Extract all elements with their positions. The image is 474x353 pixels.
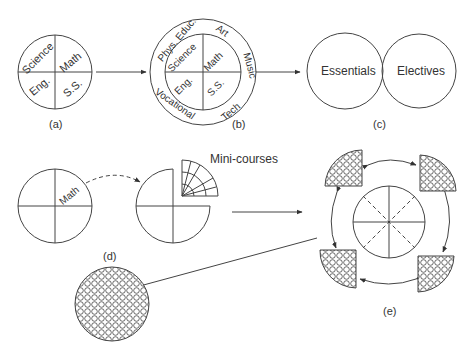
caption-a: (a) — [49, 118, 62, 130]
caption-d: (d) — [103, 250, 116, 262]
caption-b: (b) — [232, 118, 245, 130]
caption-e: (e) — [383, 305, 396, 317]
circle-label-electives: Electives — [397, 64, 445, 78]
curriculum-diagram: Science Math Eng. S.S. (a) Science Math … — [0, 0, 474, 353]
mini-courses-label: Mini-courses — [210, 152, 278, 166]
circle-label-essentials: Essentials — [321, 64, 376, 78]
caption-c: (c) — [373, 118, 386, 130]
